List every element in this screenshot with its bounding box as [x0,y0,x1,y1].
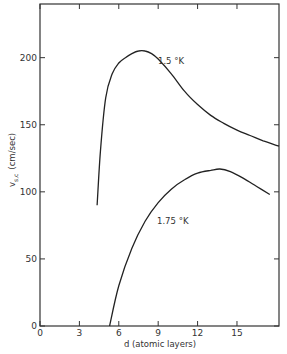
y-tick-label: 100 [20,187,37,197]
plot-frame [40,4,279,326]
y-tick-label: 150 [20,120,37,130]
x-tick-label: 6 [116,328,122,338]
curve-label-1-5K: 1.5 °K [158,56,184,66]
y-axis-label-main: vs,c(cm/sec) [7,133,19,187]
curve-1-75K [110,169,270,326]
y-axis-label: vs,c(cm/sec) [7,133,19,187]
chart: 03691215 050100150200 d (atomic layers) … [0,0,287,354]
x-axis-label: d (atomic layers) [124,339,196,349]
curves [97,51,279,326]
y-axis-ticks: 050100150200 [20,53,279,331]
x-axis-ticks: 03691215 [37,4,243,338]
y-tick-label: 50 [26,254,38,264]
x-tick-label: 9 [155,328,161,338]
curve-1-5K [97,51,279,206]
x-tick-label: 0 [37,328,43,338]
curve-label-1-75K: 1.75 °K [157,216,189,226]
y-tick-label: 0 [31,321,37,331]
y-tick-label: 200 [20,53,37,63]
x-tick-label: 3 [77,328,83,338]
x-tick-label: 15 [231,328,242,338]
x-tick-label: 12 [192,328,203,338]
